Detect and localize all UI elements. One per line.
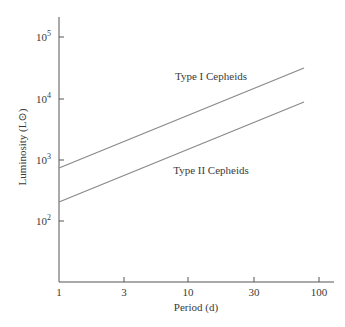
series-line-type-i (59, 68, 304, 168)
y-tick-1e2: 102 (36, 213, 51, 227)
series-label-type-i: Type I Cepheids (175, 70, 247, 82)
series-line-type-ii (59, 102, 304, 202)
x-axis-label: Period (d) (174, 301, 219, 314)
y-ticks (59, 37, 64, 221)
x-tick-labels: 1 3 10 30 100 (56, 286, 328, 298)
y-tick-labels: 105 104 103 102 (36, 29, 51, 227)
x-tick-10: 10 (183, 286, 195, 298)
x-ticks (124, 277, 319, 282)
cepheid-chart: 105 104 103 102 1 3 10 30 100 Period (d)… (0, 0, 345, 327)
x-tick-3: 3 (121, 286, 127, 298)
x-tick-100: 100 (311, 286, 328, 298)
y-axis-label: Luminosity (L⊙) (16, 108, 29, 185)
y-tick-1e5: 105 (36, 29, 51, 43)
series-label-type-ii: Type II Cepheids (173, 164, 249, 176)
y-tick-1e4: 104 (36, 91, 51, 105)
y-tick-1e3: 103 (36, 152, 51, 166)
x-tick-1: 1 (56, 286, 62, 298)
x-tick-30: 30 (249, 286, 261, 298)
